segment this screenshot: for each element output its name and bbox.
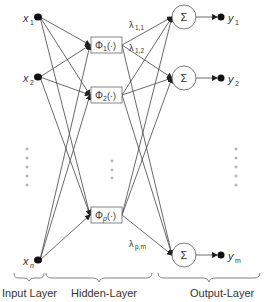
weight-label-p-m: λ p,m <box>129 239 146 251</box>
svg-text:λ: λ <box>129 239 134 249</box>
svg-text:Σ: Σ <box>181 11 188 23</box>
input-hidden-connections <box>40 17 90 260</box>
weight-label-1-2: λ 1,2 <box>129 43 144 54</box>
hidden-node-p: Φ p (·) <box>91 207 122 223</box>
output-node-m: Σ y m <box>172 243 241 267</box>
svg-text:y: y <box>227 12 235 24</box>
weight-label-1-1: λ 1,1 <box>129 20 144 31</box>
svg-text:Φ: Φ <box>95 210 103 221</box>
input-node-2: x 2 <box>22 72 42 86</box>
input-ellipsis-icon <box>26 148 28 186</box>
svg-text:(·): (·) <box>107 41 116 51</box>
layer-braces <box>14 273 260 282</box>
input-node-1: x 1 <box>22 12 42 26</box>
svg-text:Φ: Φ <box>95 90 103 101</box>
svg-text:1: 1 <box>235 19 239 26</box>
svg-text:2: 2 <box>30 79 34 86</box>
svg-text:1,2: 1,2 <box>135 47 144 54</box>
input-node-n: x n <box>22 255 42 269</box>
input-layer-label: Input Layer <box>2 287 57 299</box>
svg-text:y: y <box>227 73 235 85</box>
output-layer-brace <box>158 273 260 282</box>
output-layer-label: Output-Layer <box>190 287 255 299</box>
svg-text:Σ: Σ <box>181 72 188 84</box>
svg-text:x: x <box>22 255 29 267</box>
svg-text:1: 1 <box>30 19 34 26</box>
hidden-layer-brace <box>46 273 152 282</box>
svg-text:λ: λ <box>129 43 134 53</box>
svg-text:n: n <box>30 262 34 269</box>
output-node-2: Σ y 2 <box>172 66 239 90</box>
hidden-node-2: Φ 2 (·) <box>91 87 122 103</box>
svg-text:λ: λ <box>129 20 134 30</box>
svg-text:x: x <box>22 12 29 24</box>
svg-text:(·): (·) <box>107 211 116 221</box>
svg-text:p,m: p,m <box>135 243 146 251</box>
svg-text:Φ: Φ <box>95 40 103 51</box>
hidden-layer-label: Hidden-Layer <box>71 287 137 299</box>
svg-text:Σ: Σ <box>181 249 188 261</box>
rbf-network-diagram: x 1 x 2 x n Φ 1 (·) Φ 2 (·) Φ p (·) <box>0 0 266 302</box>
input-layer-brace <box>14 273 44 281</box>
output-ellipsis-icon <box>235 148 237 186</box>
svg-text:2: 2 <box>235 80 239 87</box>
output-node-1: Σ y 1 <box>172 5 239 29</box>
hidden-ellipsis-icon <box>111 160 113 179</box>
svg-text:y: y <box>227 250 235 262</box>
hidden-node-1: Φ 1 (·) <box>91 37 122 53</box>
svg-text:(·): (·) <box>107 91 116 101</box>
svg-text:1,1: 1,1 <box>135 24 144 31</box>
svg-text:x: x <box>22 72 29 84</box>
svg-text:m: m <box>235 257 241 264</box>
